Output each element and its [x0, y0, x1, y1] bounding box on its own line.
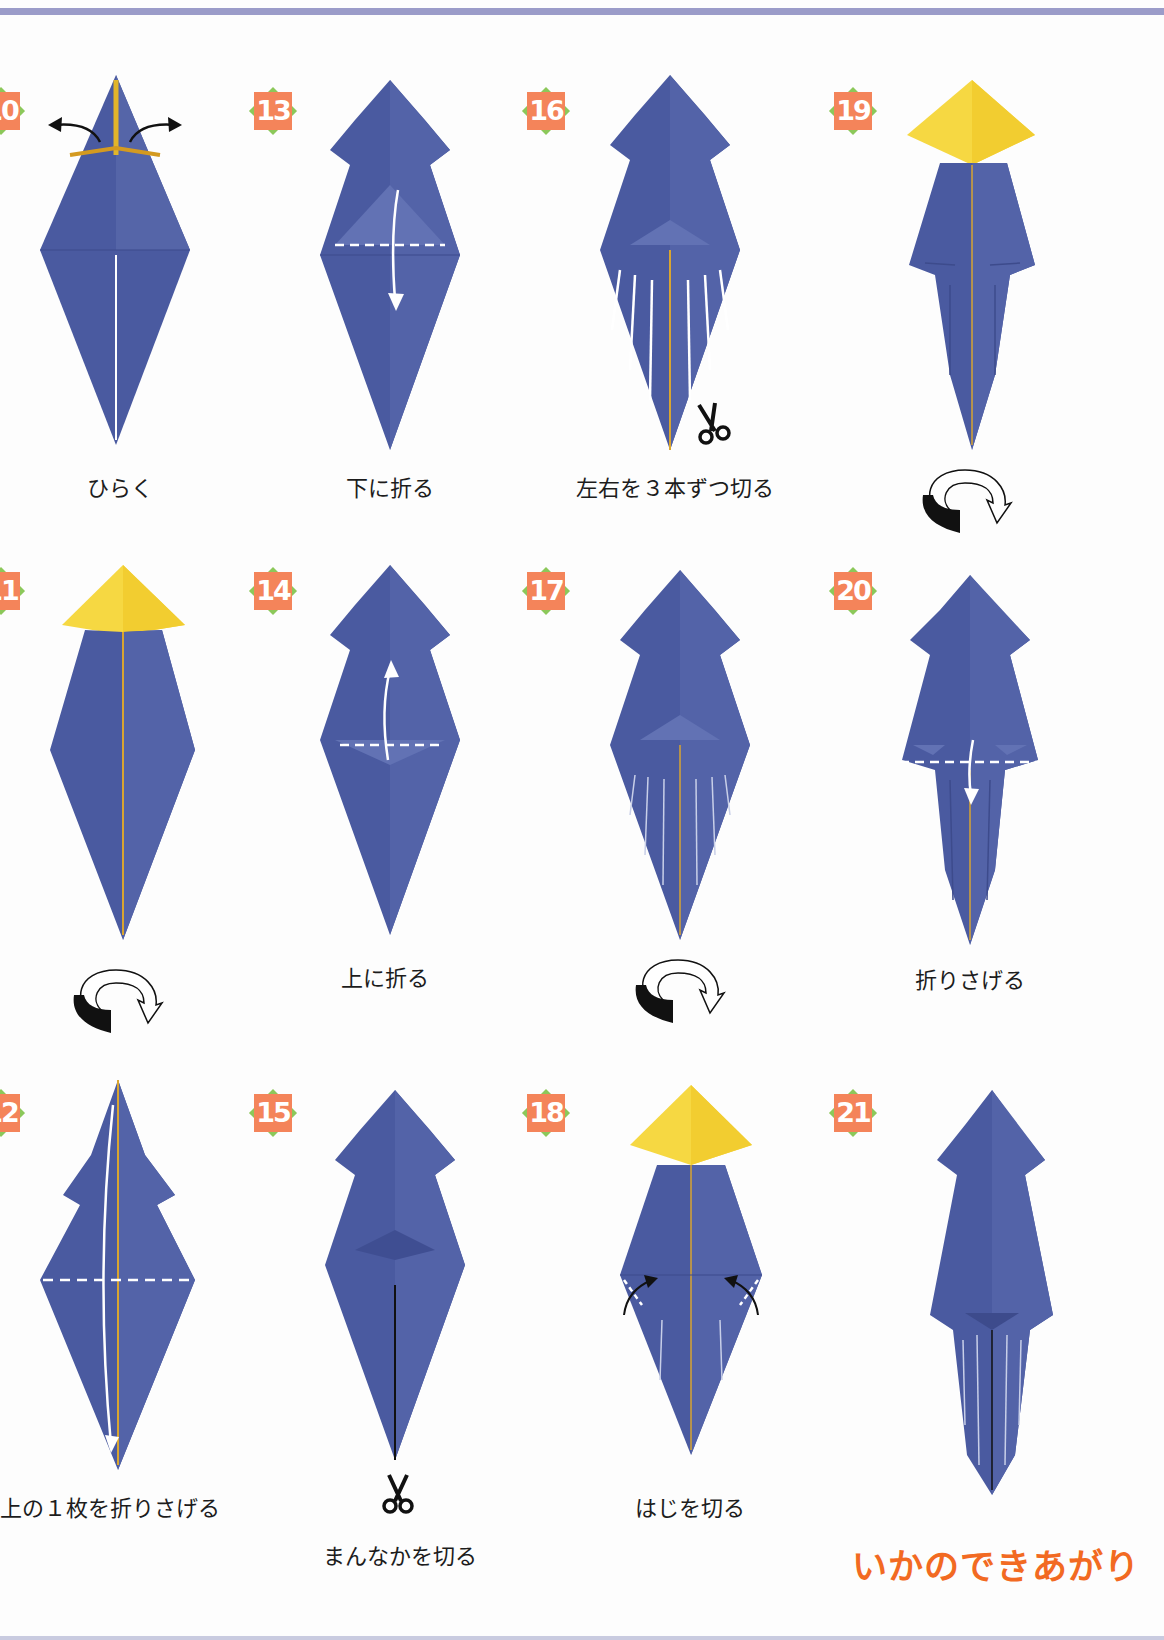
origami-figure-step-18 — [612, 1080, 772, 1460]
step-caption-12: 上の１枚を折りさげる — [0, 1490, 250, 1522]
origami-figure-step-19 — [895, 75, 1055, 455]
step-badge-18: 18 — [523, 1090, 569, 1136]
step-badge-12: 12 — [0, 1090, 24, 1136]
turn-over-icon — [628, 955, 728, 1035]
step-badge-17: 17 — [523, 568, 569, 614]
step-caption-13: 下に折る — [330, 470, 450, 502]
origami-figure-step-12 — [35, 1075, 205, 1475]
bottom-rule — [0, 1636, 1164, 1640]
origami-figure-step-10 — [30, 70, 200, 450]
top-rule — [0, 8, 1164, 15]
step-badge-16: 16 — [523, 88, 569, 134]
step-badge-19: 19 — [830, 88, 876, 134]
origami-figure-step-17 — [600, 565, 760, 945]
step-caption-20: 折りさげる — [900, 962, 1040, 994]
origami-figure-step-21-finished-squid — [905, 1085, 1065, 1505]
step-badge-15: 15 — [250, 1090, 296, 1136]
turn-over-icon — [915, 465, 1015, 545]
step-badge-21: 21 — [830, 1090, 876, 1136]
origami-figure-step-20 — [895, 570, 1055, 950]
step-caption-16: 左右を３本ずつ切る — [555, 470, 795, 502]
origami-figure-step-16 — [590, 70, 750, 455]
origami-figure-step-13 — [310, 75, 470, 455]
step-badge-13: 13 — [250, 88, 296, 134]
origami-figure-step-14 — [310, 560, 470, 940]
step-caption-15: まんなかを切る — [310, 1538, 490, 1570]
step-badge-20: 20 — [830, 568, 876, 614]
step-badge-10: 10 — [0, 88, 24, 134]
step-caption-14: 上に折る — [325, 960, 445, 992]
origami-figure-step-11 — [40, 560, 210, 950]
step-badge-14: 14 — [250, 568, 296, 614]
scissors-icon — [380, 1473, 416, 1515]
origami-figure-step-15 — [315, 1085, 475, 1465]
step-caption-18: はじを切る — [620, 1490, 760, 1522]
step-badge-11: 11 — [0, 568, 24, 614]
scissors-icon — [695, 403, 731, 445]
finish-title: いかのできあがり — [852, 1538, 1140, 1589]
step-caption-10: ひらく — [70, 470, 170, 502]
turn-over-icon — [66, 965, 166, 1045]
